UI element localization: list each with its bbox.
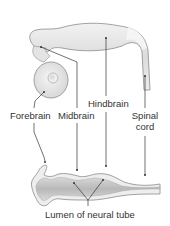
neural-tube-diagram: Hindbrain Forebrain Midbrain Spinal cord… — [0, 0, 170, 226]
label-spinal-cord: Spinal cord — [126, 110, 164, 132]
label-hindbrain: Hindbrain — [88, 98, 129, 109]
label-midbrain: Midbrain — [58, 110, 94, 121]
neural-tube-3d — [30, 23, 150, 98]
label-forebrain: Forebrain — [10, 110, 51, 121]
label-spinal-cord-line2: cord — [126, 121, 164, 132]
label-lumen: Lumen of neural tube — [45, 209, 135, 220]
label-spinal-cord-line1: Spinal — [126, 110, 164, 121]
neural-tube-section — [31, 165, 160, 206]
